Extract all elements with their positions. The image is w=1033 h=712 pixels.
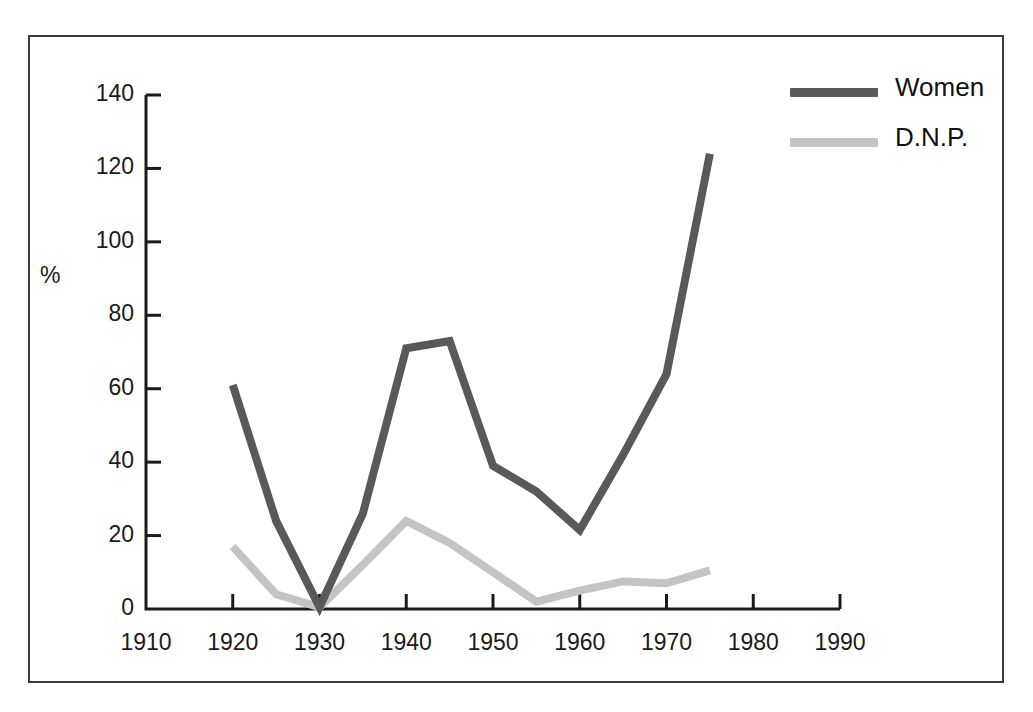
- y-axis-tick-label: 20: [54, 521, 134, 548]
- x-axis-tick-label: 1970: [622, 629, 712, 656]
- x-axis-tick-label: 1960: [535, 629, 625, 656]
- y-axis-tick-label: 140: [54, 80, 134, 107]
- y-axis-ticks: [146, 95, 161, 536]
- y-axis-tick-label: 80: [54, 300, 134, 327]
- y-axis-tick-label: 100: [54, 227, 134, 254]
- legend-label-d-n-p: D.N.P.: [895, 122, 968, 153]
- legend-swatch-d-n-p: [790, 138, 878, 147]
- chart-plot-area: [0, 0, 1033, 712]
- x-axis-tick-label: 1930: [275, 629, 365, 656]
- x-axis-tick-label: 1950: [448, 629, 538, 656]
- figure-canvas: 020406080100120140 191019201930194019501…: [0, 0, 1033, 712]
- series-line-d-n-p: [233, 521, 710, 607]
- y-axis-tick-label: 120: [54, 153, 134, 180]
- y-axis-unit-label: %: [40, 262, 60, 289]
- y-axis-tick-label: 0: [54, 594, 134, 621]
- x-axis-tick-label: 1980: [708, 629, 798, 656]
- y-axis-tick-label: 40: [54, 447, 134, 474]
- axes-lines: [146, 95, 840, 609]
- x-axis-tick-label: 1940: [361, 629, 451, 656]
- x-axis-tick-label: 1920: [188, 629, 278, 656]
- x-axis-tick-label: 1910: [101, 629, 191, 656]
- series-line-women: [233, 154, 710, 607]
- x-axis-tick-label: 1990: [795, 629, 885, 656]
- y-axis-tick-label: 60: [54, 374, 134, 401]
- legend-label-women: Women: [895, 72, 984, 103]
- axis-spine: [146, 95, 840, 609]
- data-series-group: [233, 154, 710, 607]
- legend-swatch-women: [790, 88, 878, 97]
